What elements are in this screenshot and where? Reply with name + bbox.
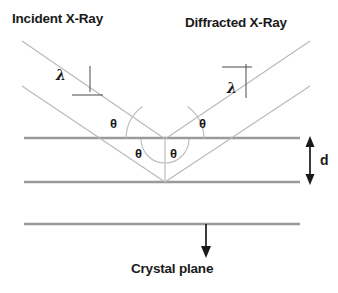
spacing-arrow-head-up [306,136,315,147]
theta-label-lower-left: θ [135,147,142,160]
incident-rays-group [22,41,165,182]
spacing-arrow [306,136,315,185]
crystal-plane-pointer [201,224,211,258]
wavelength-label-right: λ [227,81,237,95]
theta-label-upper-left: θ [110,117,117,130]
angle-arcs-upper-group [126,107,204,139]
incident-ray-label: Incident X-Ray [12,12,103,26]
crystal-plane-pointer-head [201,246,211,258]
diffracted-rays-group [165,41,310,182]
diffracted-ray-label: Diffracted X-Ray [185,16,287,30]
wavelength-marker-left [72,66,103,95]
theta-label-lower-right: θ [170,147,177,160]
theta-label-upper-right: θ [199,117,206,130]
diffracted-ray-upper [165,41,310,139]
crystal-plane-label: Crystal plane [131,262,213,276]
incident-ray-upper [22,41,165,139]
bragg-diffraction-diagram: Incident X-Ray Diffracted X-Ray λ λ θ θ … [0,0,338,293]
diagram-canvas [0,0,338,293]
spacing-arrow-head-down [306,174,315,185]
diffracted-ray-lower [165,86,310,182]
crystal-planes-group [24,138,300,224]
theta-arc-lower-left [141,139,165,163]
spacing-label: d [320,153,329,167]
wavelength-label-left: λ [56,68,66,82]
incident-ray-lower [22,86,165,182]
